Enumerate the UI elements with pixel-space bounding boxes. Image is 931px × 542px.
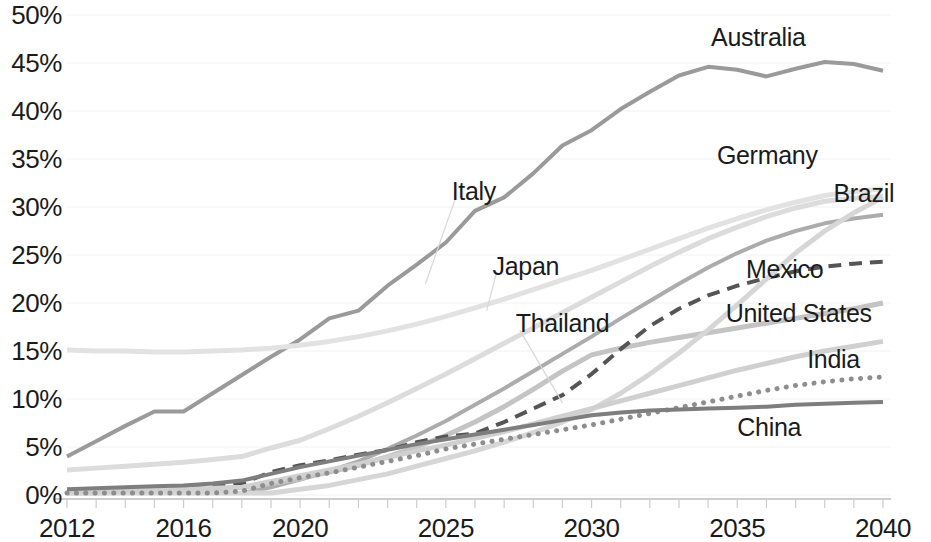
series-label-china: China (737, 415, 801, 440)
series-label-japan: Japan (492, 254, 559, 279)
x-axis-tick-label: 2030 (547, 515, 637, 541)
series-label-brazil: Brazil (833, 181, 894, 206)
y-axis-tick-label: 20% (0, 290, 62, 316)
series-label-thailand: Thailand (516, 311, 610, 336)
y-axis-tick-label: 35% (0, 146, 62, 172)
series-label-italy: Italy (452, 179, 496, 204)
x-axis-tick-label: 2040 (838, 515, 928, 541)
x-axis-tick-label: 2035 (692, 515, 782, 541)
y-axis-tick-label: 50% (0, 2, 62, 28)
series-label-australia: Australia (711, 25, 806, 50)
x-axis-tick-label: 2020 (255, 515, 345, 541)
y-axis-tick-label: 45% (0, 50, 62, 76)
y-axis-tick-label: 25% (0, 242, 62, 268)
series-label-united-states: United States (726, 301, 872, 326)
line-chart: 50%45%40%35%30%25%20%15%10%5%0% 20122016… (0, 0, 931, 542)
y-axis-tick-label: 0% (0, 482, 62, 508)
y-axis-tick-label: 40% (0, 98, 62, 124)
y-axis-tick-label: 15% (0, 338, 62, 364)
series-label-germany: Germany (717, 143, 818, 168)
label-leader-line (425, 198, 455, 284)
x-axis-tick-label: 2025 (401, 515, 491, 541)
series-label-mexico: Mexico (746, 257, 823, 282)
y-axis-tick-label: 5% (0, 434, 62, 460)
series-line-japan (67, 303, 883, 493)
y-axis-tick-label: 30% (0, 194, 62, 220)
x-axis-tick-label: 2012 (22, 515, 112, 541)
series-label-india: India (807, 347, 860, 372)
series-line-mexico (67, 262, 883, 490)
x-axis-tick-label: 2016 (139, 515, 229, 541)
y-axis-tick-label: 10% (0, 386, 62, 412)
